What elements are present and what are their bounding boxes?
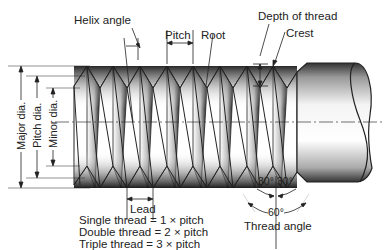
formula-double: Double thread = 2 × pitch (79, 226, 208, 238)
label-crest: Crest (286, 27, 313, 40)
label-pitch-dia: Pitch dia. (31, 103, 43, 148)
lead-formulas: Single thread = 1 × pitch Double thread … (79, 214, 208, 250)
formula-triple: Triple thread = 3 × pitch (79, 238, 208, 250)
label-angle-total: 60° (268, 206, 284, 219)
label-angle-left: 30° (258, 175, 274, 188)
formula-single: Single thread = 1 × pitch (79, 214, 208, 226)
label-root: Root (201, 29, 225, 42)
label-major-dia: Major dia. (15, 102, 27, 150)
label-minor-dia: Minor dia. (47, 100, 59, 148)
shaft (297, 63, 372, 182)
label-helix-angle: Helix angle (74, 14, 131, 27)
label-thread-angle: Thread angle (244, 220, 312, 233)
label-depth-of-thread: Depth of thread (258, 10, 337, 23)
crest-leader (273, 32, 285, 66)
label-angle-right: 30° (277, 175, 293, 188)
thread-body (74, 66, 297, 188)
label-pitch: Pitch (165, 29, 191, 42)
